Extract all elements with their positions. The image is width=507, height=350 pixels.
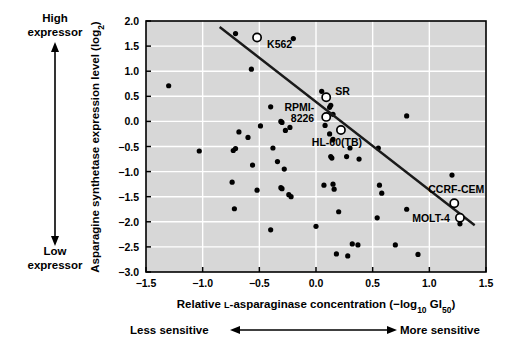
x-tick-label: −1.0 xyxy=(192,277,213,289)
y-tick-label: 1.5 xyxy=(124,40,139,52)
data-point xyxy=(404,113,409,118)
svg-text:More sensitive: More sensitive xyxy=(400,324,480,336)
x-tick-label: 1.0 xyxy=(422,277,437,289)
data-point xyxy=(336,209,341,214)
y-tick-label: −0.5 xyxy=(118,141,139,153)
y-tick-label: −2.5 xyxy=(118,241,139,253)
data-point xyxy=(287,125,292,130)
highlighted-point-ccrf-cem xyxy=(450,199,458,207)
x-tick-label: 0.0 xyxy=(309,277,324,289)
highlighted-point-molt-4 xyxy=(456,214,464,222)
point-label-sr: SR xyxy=(335,85,350,97)
data-point xyxy=(393,242,398,247)
data-point xyxy=(254,188,259,193)
svg-text:expressor: expressor xyxy=(28,259,84,271)
y-tick-label: 0.0 xyxy=(124,115,139,127)
data-point xyxy=(250,162,255,167)
data-point xyxy=(322,123,327,128)
asparagine-synthetase-scatter-figure: K562SRRPMI-8226HL-60(TB)CCRF-CEMMOLT-4 −… xyxy=(0,0,507,350)
data-point xyxy=(329,155,334,160)
point-label-rpmi-8226-line2: 8226 xyxy=(291,112,315,124)
y-tick-label: −1.5 xyxy=(118,191,139,203)
data-point xyxy=(328,103,333,108)
svg-text:Less sensitive: Less sensitive xyxy=(130,324,209,336)
data-point xyxy=(404,207,409,212)
svg-text:Low: Low xyxy=(44,245,67,257)
data-point xyxy=(279,186,284,191)
x-tick-label: 1.5 xyxy=(479,277,494,289)
data-point xyxy=(319,89,324,94)
svg-text:High: High xyxy=(42,12,68,24)
point-label-hl-60-tb-: HL-60(TB) xyxy=(312,136,362,148)
highlighted-point-k562 xyxy=(253,33,261,41)
data-point xyxy=(321,183,326,188)
data-point xyxy=(166,83,171,88)
data-point xyxy=(415,252,420,257)
data-point xyxy=(236,129,241,134)
x-tick-label: 0.5 xyxy=(365,277,380,289)
y-tick-label: −1.0 xyxy=(118,166,139,178)
data-point xyxy=(356,156,361,161)
y-tick-label: 0.5 xyxy=(124,90,139,102)
data-point xyxy=(334,251,339,256)
highlighted-point-rpmi-8226 xyxy=(322,113,330,121)
data-point xyxy=(344,154,349,159)
data-point xyxy=(275,159,280,164)
data-point xyxy=(232,206,237,211)
data-point xyxy=(270,145,275,150)
data-point xyxy=(282,166,287,171)
data-point xyxy=(233,146,238,151)
data-point xyxy=(313,224,318,229)
svg-text:expressor: expressor xyxy=(28,26,84,38)
highlighted-point-sr xyxy=(322,93,330,101)
data-point xyxy=(377,183,382,188)
data-point xyxy=(345,253,350,258)
data-point xyxy=(350,241,355,246)
data-point xyxy=(379,191,384,196)
y-tick-label: −2.0 xyxy=(118,216,139,228)
y-tick-label: 2.0 xyxy=(124,15,139,27)
data-point xyxy=(375,215,380,220)
data-point xyxy=(249,67,254,72)
data-point xyxy=(330,182,335,187)
data-point xyxy=(449,173,454,178)
data-point xyxy=(355,242,360,247)
y-tick-label: 1.0 xyxy=(124,65,139,77)
data-point xyxy=(279,120,284,125)
data-point xyxy=(197,148,202,153)
data-point xyxy=(258,123,263,128)
point-label-molt-4: MOLT-4 xyxy=(412,212,450,224)
point-label-ccrf-cem: CCRF-CEM xyxy=(428,183,484,195)
point-label-k562: K562 xyxy=(267,38,292,50)
x-tick-label: −1.5 xyxy=(136,277,157,289)
data-point xyxy=(268,227,273,232)
data-point xyxy=(332,187,337,192)
chart-canvas: K562SRRPMI-8226HL-60(TB)CCRF-CEMMOLT-4 −… xyxy=(0,0,507,350)
data-point xyxy=(288,194,293,199)
x-tick-label: −0.5 xyxy=(249,277,270,289)
data-point xyxy=(230,180,235,185)
data-point xyxy=(245,135,250,140)
highlighted-point-hl-60-tb- xyxy=(337,126,345,134)
data-point xyxy=(233,31,238,36)
data-point xyxy=(268,104,273,109)
data-point xyxy=(283,128,288,133)
